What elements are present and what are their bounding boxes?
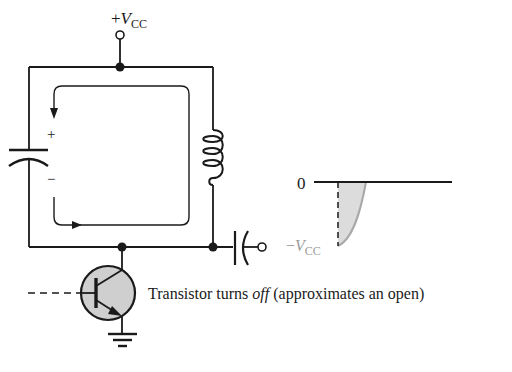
transistor	[80, 247, 135, 333]
circuit-diagram: +VCC + −	[0, 0, 512, 372]
loop-arrowhead-down	[50, 108, 58, 119]
transistor-caption: Transistor turns off (approximates an op…	[148, 285, 424, 303]
waveform-neg-vcc-label: −VCC	[286, 237, 321, 258]
ground-icon	[108, 334, 137, 346]
output-capacitor	[235, 231, 258, 265]
output-waveform	[314, 182, 452, 246]
supply-terminal	[116, 31, 125, 72]
loop-arrowhead-right	[72, 221, 82, 229]
output-terminal	[258, 243, 266, 251]
capacitor-minus-sign: −	[47, 171, 55, 187]
junction-dot-output	[209, 243, 218, 252]
vcc-label: +VCC	[111, 9, 147, 31]
circuit-wires	[29, 67, 233, 247]
waveform-zero-label: 0	[297, 174, 306, 193]
tank-inductor	[203, 130, 223, 185]
capacitor-plus-sign: +	[47, 126, 55, 142]
current-loop-arrow	[54, 86, 189, 225]
